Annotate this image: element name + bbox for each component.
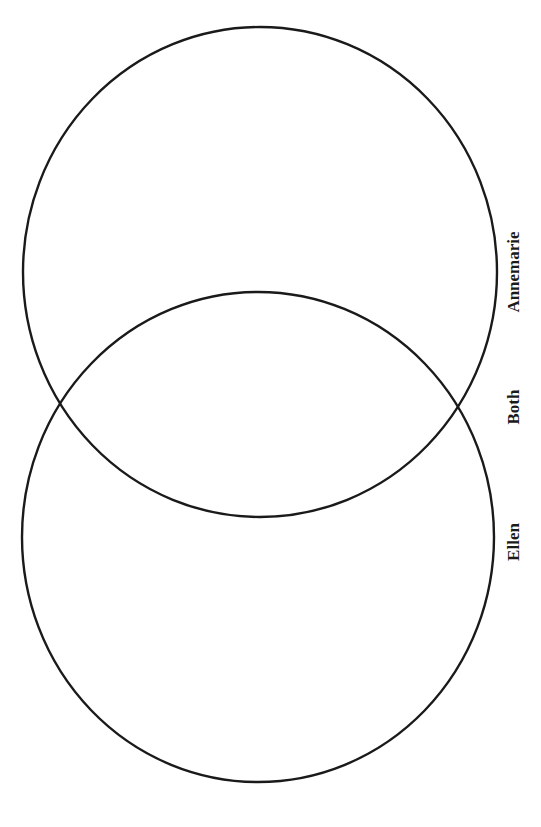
ellen-circle [22, 292, 494, 782]
both-label: Both [504, 389, 523, 425]
annemarie-label: Annemarie [504, 231, 523, 313]
annemarie-circle [23, 27, 497, 517]
venn-diagram: Annemarie Both Ellen [0, 0, 541, 827]
ellen-label: Ellen [504, 523, 523, 561]
